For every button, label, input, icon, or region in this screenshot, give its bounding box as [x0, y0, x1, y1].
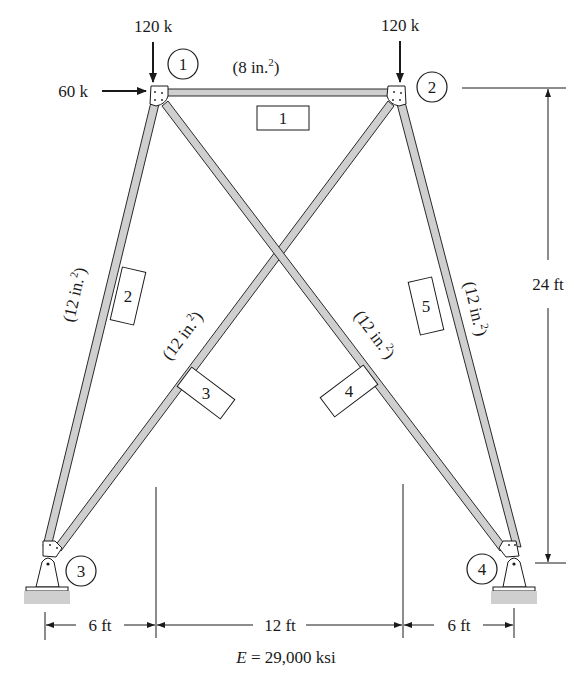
dimension-left-label: 6 ft: [88, 616, 111, 635]
node-label-3: 3: [66, 556, 96, 586]
load-label: 60 k: [58, 82, 88, 101]
member-2-area: (12 in.2): [57, 265, 90, 324]
load-node-1-vertical: 120 k: [134, 17, 173, 82]
member-label-4: 4: [320, 365, 378, 417]
truss-diagram: 120 k 120 k 60 k 1 2 3 4 1 2 3 4: [0, 0, 580, 679]
svg-text:4: 4: [478, 560, 487, 579]
member-label-1: 1: [257, 106, 309, 130]
member-1: [166, 89, 389, 96]
support-node-4: [491, 541, 537, 604]
svg-text:3: 3: [77, 562, 86, 581]
member-2: [43, 102, 159, 547]
member-1-area: (8 in.2): [232, 56, 279, 77]
member-label-5: 5: [408, 277, 444, 335]
load-node-1-horizontal: 60 k: [58, 82, 146, 101]
svg-text:2: 2: [124, 287, 133, 306]
node-label-4: 4: [467, 554, 497, 584]
svg-text:1: 1: [279, 109, 288, 128]
svg-text:1: 1: [179, 55, 188, 74]
node-label-1: 1: [168, 49, 198, 79]
svg-text:4: 4: [345, 382, 354, 401]
member-3: [55, 101, 394, 551]
dimension-bottom: 6 ft 12 ft 6 ft: [45, 484, 514, 640]
load-label: 120 k: [381, 16, 420, 35]
svg-text:3: 3: [202, 384, 211, 403]
svg-text:5: 5: [422, 297, 431, 316]
svg-text:2: 2: [428, 78, 437, 97]
material-modulus: E = 29,000 ksi: [235, 648, 336, 667]
support-node-3: [24, 541, 70, 604]
member-4: [162, 101, 506, 551]
member-5: [397, 102, 521, 547]
dimension-right-label: 6 ft: [447, 616, 470, 635]
load-label: 120 k: [134, 17, 173, 36]
member-5-area: (12 in.2): [460, 279, 493, 338]
dimension-middle-label: 12 ft: [264, 616, 296, 635]
member-label-3: 3: [177, 367, 235, 419]
dimension-height: 24 ft: [462, 88, 566, 563]
dimension-height-label: 24 ft: [532, 275, 564, 294]
load-node-2-vertical: 120 k: [381, 16, 420, 82]
node-label-2: 2: [417, 72, 447, 102]
